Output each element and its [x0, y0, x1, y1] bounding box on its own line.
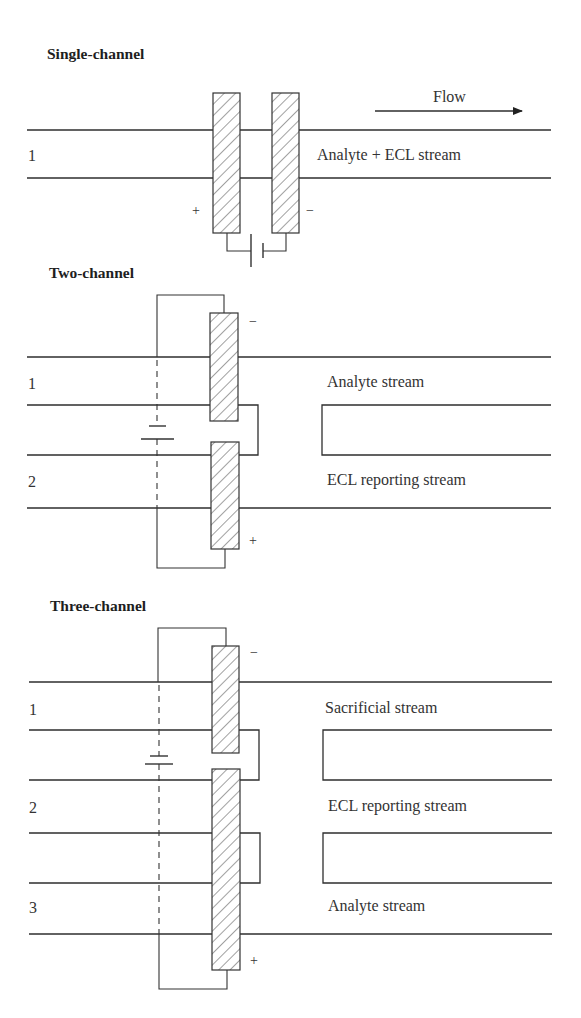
stream-label: Sacrificial stream [325, 699, 438, 716]
channel-number: 1 [28, 147, 36, 164]
negative-sign: − [249, 314, 257, 329]
section-title: Two-channel [49, 264, 135, 281]
negative-sign: − [306, 203, 314, 218]
stream-label: Analyte stream [327, 373, 425, 391]
channel-number: 2 [29, 799, 37, 816]
anode-electrode [212, 769, 240, 970]
channel-number: 2 [28, 473, 36, 490]
three-channel-section: Three-channel 1 2 3 Sacrificial stream E… [29, 597, 552, 989]
positive-sign: + [249, 533, 257, 548]
section-title: Three-channel [50, 597, 147, 614]
cathode-electrode [210, 313, 238, 421]
anode-electrode [211, 442, 239, 549]
anode-electrode [213, 93, 240, 233]
section-title: Single-channel [47, 45, 145, 62]
stream-label: Analyte + ECL stream [317, 146, 462, 164]
single-channel-section: Single-channel Flow 1 Analyte + ECL stre… [27, 45, 551, 267]
positive-sign: + [192, 203, 200, 218]
stream-label: ECL reporting stream [328, 797, 467, 815]
stream-label: ECL reporting stream [327, 471, 466, 489]
negative-sign: − [250, 645, 258, 660]
channel-number: 3 [29, 899, 37, 916]
channel-divider [322, 405, 551, 455]
channel-divider [323, 833, 552, 883]
stream-label: Analyte stream [328, 897, 426, 915]
positive-sign: + [250, 953, 258, 968]
wire [227, 233, 251, 251]
channel-number: 1 [28, 375, 36, 392]
flow-label: Flow [433, 88, 466, 105]
two-channel-section: Two-channel 1 2 Analyte stream ECL repor… [27, 264, 551, 568]
cathode-electrode [212, 646, 239, 753]
channel-number: 1 [29, 701, 37, 718]
ecl-channel-diagram: Single-channel Flow 1 Analyte + ECL stre… [0, 0, 581, 1018]
cathode-electrode [272, 93, 299, 233]
wire [263, 233, 286, 251]
channel-divider [323, 730, 552, 780]
